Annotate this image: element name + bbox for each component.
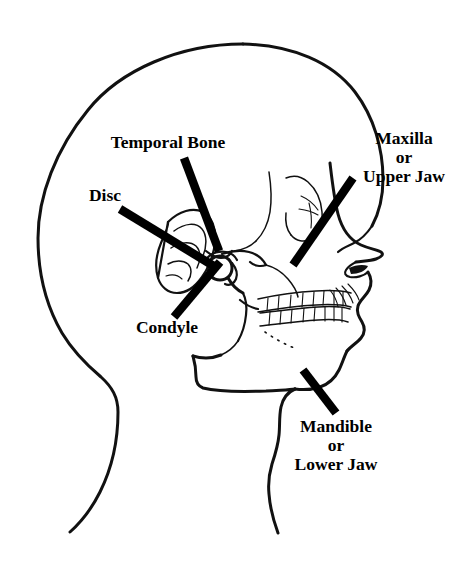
anatomy-illustration: Temporal Bone Disc Condyle Maxilla or Up… <box>0 0 463 563</box>
label-condyle: Condyle <box>136 317 198 337</box>
label-disc: Disc <box>89 185 121 205</box>
neck-anterior <box>269 389 295 533</box>
label-mandible: Mandible or Lower Jaw <box>295 416 378 474</box>
pointer-condyle <box>174 262 220 317</box>
label-temporal-bone: Temporal Bone <box>111 132 226 152</box>
pointer-mandible <box>303 370 336 413</box>
alveolar-dotted-guide <box>265 332 297 349</box>
label-maxilla-line3: Upper Jaw <box>363 166 445 186</box>
mandible-body <box>193 300 295 391</box>
pointer-maxilla <box>293 178 353 265</box>
tmj-anatomy-diagram: Temporal Bone Disc Condyle Maxilla or Up… <box>0 0 463 563</box>
label-mandible-line1: Mandible <box>300 416 372 436</box>
label-mandible-line3: Lower Jaw <box>295 454 378 474</box>
label-maxilla-line1: Maxilla <box>375 128 433 148</box>
diagram-labels: Temporal Bone Disc Condyle Maxilla or Up… <box>89 128 445 474</box>
pointer-temporal-bone <box>184 158 219 251</box>
label-mandible-line2: or <box>328 435 345 455</box>
label-maxilla: Maxilla or Upper Jaw <box>363 128 445 186</box>
label-maxilla-line2: or <box>396 147 413 167</box>
mandible-ramus <box>193 293 246 358</box>
